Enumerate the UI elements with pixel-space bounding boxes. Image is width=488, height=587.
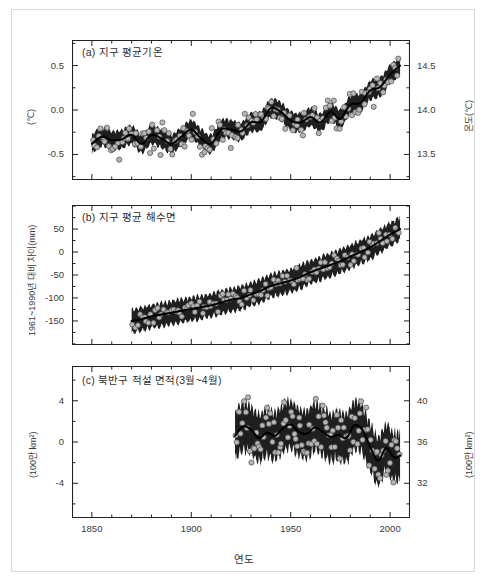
- xaxis-tick-labels: 1850190019502000: [0, 523, 488, 537]
- panel-a-left-axis-label: (℃): [26, 109, 36, 125]
- panel-a-right-axis-label: 온도(℃): [462, 100, 475, 132]
- panel-b-title: (b) 지구 평균 해수면: [82, 209, 176, 224]
- panel-a-title: (a) 지구 평균기온: [82, 44, 163, 59]
- panel-c-left-axis-label: (100만 km²): [26, 431, 39, 478]
- panel-global-mean-sea-level: (b) 지구 평균 해수면: [72, 205, 410, 345]
- panel-c-title: (c) 북반구 적설 면적(3월~4월): [82, 372, 222, 387]
- xaxis-tick-1950: 1950: [280, 523, 301, 534]
- panel-global-mean-temperature: (a) 지구 평균기온: [72, 40, 410, 180]
- panel-c-plot: [72, 366, 410, 518]
- panel-b-plot: [72, 205, 410, 345]
- panel-b-left-axis-label: 1961~1990년 대비 차이(mm): [25, 225, 38, 336]
- xaxis-tick-1850: 1850: [81, 523, 102, 534]
- climate-indicators-figure: (a) 지구 평균기온 (℃) 온도(℃) 0.50.0-0.5 14.514.…: [0, 0, 488, 587]
- panel-nh-snow-cover: (c) 북반구 적설 면적(3월~4월): [72, 366, 410, 518]
- panel-c-right-axis-label: (100만 km²): [462, 431, 475, 478]
- xaxis-tick-2000: 2000: [380, 523, 401, 534]
- xaxis-tick-1900: 1900: [181, 523, 202, 534]
- panel-a-plot: [72, 40, 410, 180]
- xaxis-title: 연도: [0, 551, 488, 566]
